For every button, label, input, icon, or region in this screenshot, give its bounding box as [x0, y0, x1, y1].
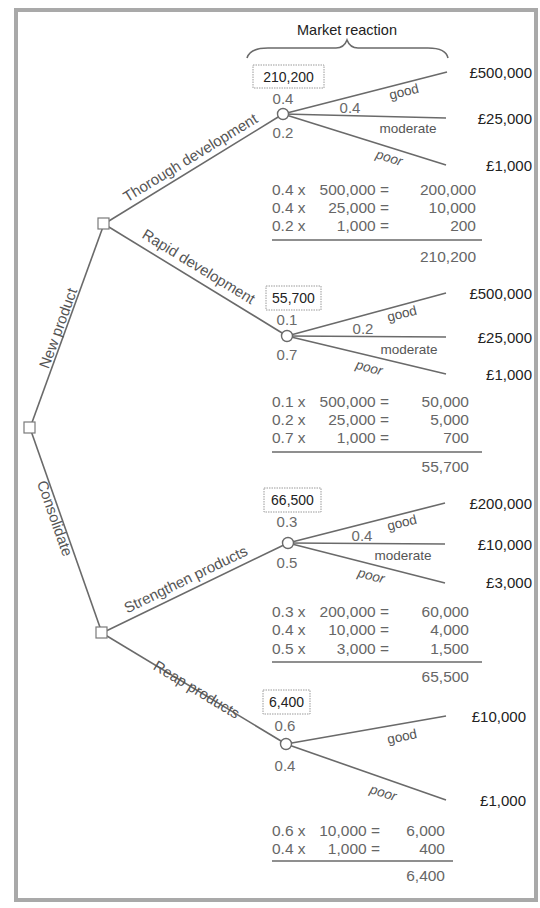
header-market-reaction: Market reaction	[297, 22, 397, 38]
svg-text:0.3 x: 0.3 x	[272, 603, 306, 620]
chance-node	[281, 739, 292, 750]
svg-text:10,000 =: 10,000 =	[319, 822, 380, 839]
ev-value: 55,700	[272, 290, 315, 306]
svg-text:10,000 =: 10,000 =	[328, 621, 389, 638]
calc-total: 55,700	[422, 458, 470, 475]
svg-text:0.7 x: 0.7 x	[272, 429, 306, 446]
ev-value: 66,500	[271, 492, 314, 508]
prob-good: 0.1	[277, 311, 298, 328]
svg-text:0.5 x: 0.5 x	[272, 640, 306, 657]
svg-text:60,000: 60,000	[422, 603, 470, 620]
svg-text:200: 200	[450, 217, 476, 234]
svg-text:1,500: 1,500	[430, 640, 469, 657]
svg-text:0.4 x: 0.4 x	[272, 840, 306, 857]
svg-text:0.2 x: 0.2 x	[272, 217, 306, 234]
payoff-good: £500,000	[469, 64, 532, 81]
svg-text:50,000: 50,000	[422, 393, 470, 410]
payoff-moderate: £25,000	[478, 329, 532, 346]
chance-group-strengthen: 66,500 0.3 0.4 0.5 good moderate poor £2…	[264, 488, 532, 685]
label-rapid: Rapid development	[139, 225, 259, 307]
prob-poor: 0.7	[277, 346, 298, 363]
chance-group-thorough: 210,200 0.4 0.4 0.2 good moderate poor £…	[253, 64, 532, 265]
svg-text:0.4 x: 0.4 x	[272, 181, 306, 198]
ev-value: 210,200	[263, 69, 314, 85]
svg-text:500,000 =: 500,000 =	[320, 181, 389, 198]
svg-text:3,000 =: 3,000 =	[337, 640, 389, 657]
outcome-poor: poor	[353, 357, 384, 379]
calculation: 0.1 x 500,000 = 50,000 0.2 x 25,000 = 5,…	[272, 393, 482, 475]
payoff-poor: £1,000	[486, 366, 532, 383]
payoff-good: £500,000	[469, 285, 532, 302]
outcome-good: good	[386, 303, 419, 325]
svg-text:25,000 =: 25,000 =	[328, 199, 389, 216]
decision-tree: Market reaction New product Consolidate …	[0, 0, 540, 908]
svg-text:500,000 =: 500,000 =	[320, 393, 389, 410]
outcome-moderate: moderate	[380, 342, 437, 357]
svg-text:0.4 x: 0.4 x	[272, 199, 306, 216]
label-new-product: New product	[35, 285, 80, 371]
prob-moderate: 0.4	[340, 99, 361, 116]
brace-icon	[247, 40, 448, 58]
outcome-poor: poor	[367, 781, 399, 804]
prob-moderate: 0.2	[353, 320, 374, 337]
outcome-poor: poor	[373, 146, 405, 169]
prob-good: 0.6	[275, 717, 296, 734]
prob-poor: 0.5	[277, 554, 298, 571]
ev-value: 6,400	[269, 694, 304, 710]
outcome-moderate: moderate	[374, 548, 431, 563]
payoff-good: £10,000	[472, 708, 526, 725]
label-consolidate: Consolidate	[34, 478, 76, 558]
branch-rapid	[104, 224, 287, 336]
payoff-poor: £1,000	[486, 157, 532, 174]
payoff-poor: £3,000	[486, 574, 532, 591]
decision-node-new-product	[98, 218, 109, 229]
prob-moderate: 0.4	[352, 527, 373, 544]
svg-text:6,000: 6,000	[406, 822, 445, 839]
svg-text:5,000: 5,000	[430, 411, 469, 428]
svg-text:1,000 =: 1,000 =	[337, 429, 389, 446]
chance-group-rapid: 55,700 0.1 0.2 0.7 good moderate poor £5…	[266, 285, 532, 475]
payoff-moderate: £10,000	[478, 536, 532, 553]
prob-poor: 0.2	[273, 124, 294, 141]
chance-node	[278, 109, 289, 120]
svg-text:1,000 =: 1,000 =	[328, 840, 380, 857]
decision-node-consolidate	[96, 627, 107, 638]
prob-good: 0.4	[273, 90, 294, 107]
svg-text:4,000: 4,000	[430, 621, 469, 638]
prob-good: 0.3	[277, 513, 298, 530]
calc-total: 210,200	[420, 248, 476, 265]
label-reap: Reap products	[151, 657, 243, 722]
svg-text:0.1 x: 0.1 x	[272, 393, 306, 410]
calculation: 0.4 x 500,000 = 200,000 0.4 x 25,000 = 1…	[272, 181, 482, 265]
root-decision-node	[24, 422, 35, 433]
prob-poor: 0.4	[275, 757, 296, 774]
svg-text:200,000: 200,000	[420, 181, 476, 198]
label-thorough: Thorough development	[120, 109, 261, 205]
chance-group-reap: 6,400 0.6 0.4 good poor £10,000 £1,000 0…	[263, 690, 526, 884]
svg-text:0.6 x: 0.6 x	[272, 822, 306, 839]
svg-text:1,000 =: 1,000 =	[337, 217, 389, 234]
payoff-good: £200,000	[469, 495, 532, 512]
calculation: 0.6 x 10,000 = 6,000 0.4 x 1,000 = 400 6…	[272, 822, 453, 884]
payoff-moderate: £25,000	[478, 110, 532, 127]
svg-text:0.4 x: 0.4 x	[272, 621, 306, 638]
svg-text:400: 400	[419, 840, 445, 857]
label-strengthen: Strengthen products	[121, 542, 250, 616]
outcome-good: good	[386, 512, 419, 534]
outcome-good: good	[386, 726, 419, 747]
chance-node	[282, 331, 293, 342]
svg-text:700: 700	[443, 429, 469, 446]
svg-text:25,000 =: 25,000 =	[328, 411, 389, 428]
calc-total: 65,500	[422, 668, 470, 685]
outcome-good: good	[388, 81, 421, 103]
svg-text:0.2 x: 0.2 x	[272, 411, 306, 428]
outcome-poor: poor	[355, 565, 386, 587]
outcome-moderate: moderate	[379, 121, 436, 136]
svg-text:10,000: 10,000	[429, 199, 477, 216]
branch-strengthen	[102, 543, 288, 633]
calculation: 0.3 x 200,000 = 60,000 0.4 x 10,000 = 4,…	[272, 603, 482, 685]
calc-total: 6,400	[406, 867, 445, 884]
branch-thorough	[104, 114, 283, 224]
svg-text:200,000 =: 200,000 =	[320, 603, 389, 620]
chance-node	[283, 538, 294, 549]
